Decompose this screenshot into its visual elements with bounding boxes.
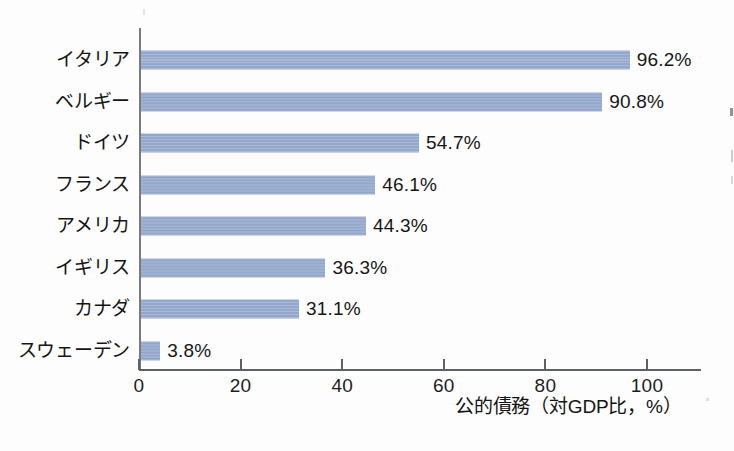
bar-value-label: 3.8%	[167, 340, 211, 362]
chart-page: 020406080100 イタリア96.2%ベルギー90.8%ドイツ54.7%フ…	[0, 0, 734, 451]
bar	[141, 341, 160, 360]
bar	[141, 51, 630, 70]
category-label: イタリア	[0, 49, 139, 71]
bar-value-label: 46.1%	[382, 174, 437, 196]
bar-row: フランス46.1%	[0, 165, 734, 205]
x-axis-tick-label: 60	[433, 375, 455, 397]
x-axis-tick-label: 100	[631, 375, 663, 397]
category-label: ベルギー	[0, 91, 139, 113]
category-label: イギリス	[0, 257, 139, 279]
category-label: アメリカ	[0, 215, 139, 237]
bar-row: スウェーデン3.8%	[0, 331, 734, 371]
bar	[141, 134, 419, 153]
category-label: カナダ	[0, 298, 139, 320]
bar	[141, 258, 325, 277]
x-axis-tick-label: 40	[331, 375, 353, 397]
bar-row: ベルギー90.8%	[0, 82, 734, 122]
x-axis-title: 公的債務（対GDP比，%）	[455, 395, 681, 418]
bar-row: イギリス36.3%	[0, 248, 734, 288]
bar-value-label: 54.7%	[426, 132, 481, 154]
bar-row: カナダ31.1%	[0, 289, 734, 329]
bar-row: アメリカ44.3%	[0, 206, 734, 246]
x-axis-tick-label: 80	[535, 375, 557, 397]
category-label: フランス	[0, 174, 139, 196]
bar-value-label: 31.1%	[306, 298, 361, 320]
horizontal-bar-chart: 020406080100 イタリア96.2%ベルギー90.8%ドイツ54.7%フ…	[0, 0, 734, 451]
bar	[141, 300, 299, 319]
bar-row: ドイツ54.7%	[0, 123, 734, 163]
bar-value-label: 96.2%	[637, 49, 692, 71]
bar	[141, 175, 375, 194]
bar-row: イタリア96.2%	[0, 40, 734, 80]
bar	[141, 217, 366, 236]
bar-value-label: 90.8%	[609, 91, 664, 113]
bar-value-label: 44.3%	[373, 215, 428, 237]
category-label: ドイツ	[0, 132, 139, 154]
x-axis-tick-label: 0	[134, 375, 145, 397]
bar	[141, 92, 602, 111]
bar-value-label: 36.3%	[332, 257, 387, 279]
category-label: スウェーデン	[0, 340, 139, 362]
x-axis-tick-label: 20	[230, 375, 252, 397]
